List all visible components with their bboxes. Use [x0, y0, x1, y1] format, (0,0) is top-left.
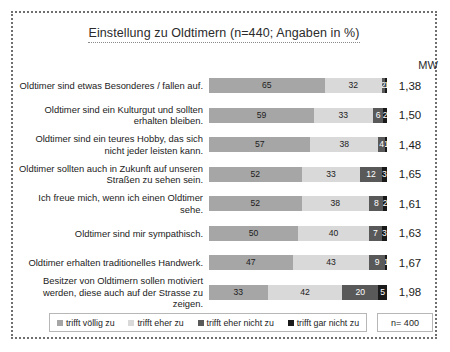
bar-segment: 52	[209, 167, 302, 182]
legend-item[interactable]: trifft völlig zu	[57, 318, 115, 328]
mean-value: 1,63	[387, 227, 433, 239]
mean-value: 1,48	[387, 139, 433, 151]
bar-segment: 33	[314, 108, 373, 123]
bar-segment: 12	[360, 167, 381, 182]
bar-segment: 52	[209, 196, 302, 211]
stacked-bar: 504073	[209, 226, 387, 241]
mean-column-header: MW	[405, 59, 450, 71]
stacked-bar: 653221	[209, 78, 387, 93]
chart-frame: Einstellung zu Oldtimern (n=440; Angaben…	[11, 11, 437, 339]
bar-segment: 6	[373, 108, 384, 123]
bar-segment: 33	[209, 285, 268, 300]
stacked-bar: 5233123	[209, 167, 387, 182]
stacked-bar: 573841	[209, 137, 387, 152]
legend-swatch-icon	[198, 320, 204, 326]
category-label: Oldtimer sind mir sympathisch.	[13, 228, 209, 239]
bar-segment: 4	[378, 137, 385, 152]
mean-value: 1,67	[387, 257, 433, 269]
bar-segment: 50	[209, 226, 298, 241]
stacked-bar: 523882	[209, 196, 387, 211]
bar-segment: 9	[369, 255, 385, 270]
stacked-bar: 593362	[209, 108, 387, 123]
bar-segment: 8	[369, 196, 383, 211]
bar-segment: 33	[302, 167, 361, 182]
bar-segment: 5	[378, 285, 387, 300]
category-label: Oldtimer sollten auch in Zukunft auf uns…	[13, 163, 209, 186]
bar-segment: 32	[325, 78, 382, 93]
chart-row: Oldtimer erhalten traditionelles Handwer…	[13, 248, 439, 278]
chart-row: Oldtimer sind ein Kulturgut und sollten …	[13, 101, 439, 131]
legend-label: trifft völlig zu	[66, 318, 115, 328]
legend-label: trifft gar nicht zu	[297, 318, 359, 328]
bar-segment: 43	[293, 255, 370, 270]
legend-item[interactable]: trifft gar nicht zu	[288, 318, 359, 328]
bar-segment: 40	[298, 226, 369, 241]
stacked-bar: 3342205	[209, 285, 387, 300]
legend-swatch-icon	[128, 320, 134, 326]
chart-row: Oldtimer sollten auch in Zukunft auf uns…	[13, 160, 439, 190]
category-label: Besitzer von Oldtimern sollen motiviert …	[13, 275, 209, 309]
chart-row: Oldtimer sind mir sympathisch.5040731,63	[13, 219, 439, 249]
chart-title-container: Einstellung zu Oldtimern (n=440; Angaben…	[13, 23, 435, 43]
mean-value: 1,65	[387, 168, 433, 180]
sample-size-badge: n= 400	[377, 313, 433, 332]
bar-segment: 42	[268, 285, 343, 300]
legend-swatch-icon	[288, 320, 294, 326]
chart-row: Oldtimer sind ein teures Hobby, das sich…	[13, 130, 439, 160]
bar-segment: 7	[369, 226, 381, 241]
category-label: Oldtimer sind etwas Besonderes / fallen …	[13, 80, 209, 91]
mean-value: 1,61	[387, 198, 433, 210]
legend-label: trifft eher nicht zu	[207, 318, 274, 328]
category-label: Oldtimer erhalten traditionelles Handwer…	[13, 257, 209, 268]
chart-row: Besitzer von Oldtimern sollen motiviert …	[13, 278, 439, 308]
chart-plot-area: Oldtimer sind etwas Besonderes / fallen …	[13, 71, 439, 307]
mean-value: 1,98	[387, 286, 433, 298]
chart-row: Oldtimer sind etwas Besonderes / fallen …	[13, 71, 439, 101]
legend-label: trifft eher zu	[137, 318, 183, 328]
category-label: Ich freue mich, wenn ich einen Oldtimer …	[13, 192, 209, 215]
bar-segment: 38	[302, 196, 370, 211]
legend-swatch-icon	[57, 320, 63, 326]
bar-segment: 20	[342, 285, 378, 300]
bar-segment: 38	[310, 137, 378, 152]
page-title: Einstellung zu Oldtimern (n=440; Angaben…	[88, 26, 359, 43]
mean-value: 1,38	[387, 80, 433, 92]
mean-value: 1,50	[387, 109, 433, 121]
chart-row: Ich freue mich, wenn ich einen Oldtimer …	[13, 189, 439, 219]
stacked-bar: 474391	[209, 255, 387, 270]
category-label: Oldtimer sind ein Kulturgut und sollten …	[13, 104, 209, 127]
bar-segment: 47	[209, 255, 293, 270]
category-label: Oldtimer sind ein teures Hobby, das sich…	[13, 133, 209, 156]
bar-segment: 65	[209, 78, 325, 93]
chart-legend: trifft völlig zutrifft eher zutrifft ehe…	[49, 313, 367, 332]
bar-segment: 59	[209, 108, 314, 123]
bar-segment: 57	[209, 137, 310, 152]
legend-item[interactable]: trifft eher nicht zu	[198, 318, 274, 328]
legend-item[interactable]: trifft eher zu	[128, 318, 183, 328]
